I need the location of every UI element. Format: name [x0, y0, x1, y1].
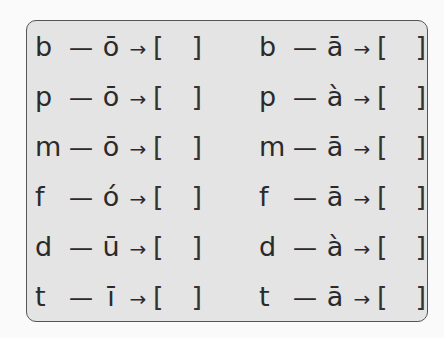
open-bracket: [: [153, 127, 164, 167]
arrow-icon: →: [123, 179, 153, 219]
dash: —: [287, 178, 323, 218]
dash: —: [287, 278, 323, 318]
initial: m: [35, 127, 63, 167]
initial: p: [35, 77, 63, 117]
dash: —: [63, 228, 99, 268]
close-bracket: ]: [416, 277, 427, 317]
initial: b: [35, 27, 63, 67]
dash: —: [287, 28, 323, 68]
exercise-row: p—ō→[]: [35, 77, 213, 117]
open-bracket: [: [153, 277, 164, 317]
final: ī: [99, 277, 123, 317]
close-bracket: ]: [192, 177, 203, 217]
exercise-row: d—à→[]: [259, 227, 437, 267]
exercise-row: t—ī→[]: [35, 277, 213, 317]
initial: b: [259, 27, 287, 67]
exercise-row: t—ā→[]: [259, 277, 437, 317]
close-bracket: ]: [416, 77, 427, 117]
exercise-row: p—à→[]: [259, 77, 437, 117]
final: ā: [323, 127, 347, 167]
answer-blank[interactable]: []: [377, 177, 437, 217]
arrow-icon: →: [123, 229, 153, 269]
close-bracket: ]: [192, 277, 203, 317]
answer-blank[interactable]: []: [377, 77, 437, 117]
close-bracket: ]: [192, 77, 203, 117]
open-bracket: [: [153, 177, 164, 217]
final: ó: [99, 177, 123, 217]
open-bracket: [: [377, 27, 388, 67]
open-bracket: [: [377, 177, 388, 217]
initial: d: [35, 227, 63, 267]
exercise-row: m—ō→[]: [35, 127, 213, 167]
exercise-row: b—ō→[]: [35, 27, 213, 67]
arrow-icon: →: [123, 79, 153, 119]
arrow-icon: →: [347, 79, 377, 119]
exercise-row: d—ū→[]: [35, 227, 213, 267]
close-bracket: ]: [416, 27, 427, 67]
initial: t: [35, 277, 63, 317]
exercise-row: f—ó→[]: [35, 177, 213, 217]
dash: —: [63, 278, 99, 318]
arrow-icon: →: [123, 29, 153, 69]
open-bracket: [: [153, 77, 164, 117]
initial: t: [259, 277, 287, 317]
answer-blank[interactable]: []: [153, 77, 213, 117]
close-bracket: ]: [416, 227, 427, 267]
open-bracket: [: [377, 277, 388, 317]
open-bracket: [: [377, 127, 388, 167]
close-bracket: ]: [416, 127, 427, 167]
initial: d: [259, 227, 287, 267]
final: ā: [323, 27, 347, 67]
close-bracket: ]: [416, 177, 427, 217]
answer-blank[interactable]: []: [377, 277, 437, 317]
initial: f: [35, 177, 63, 217]
close-bracket: ]: [192, 227, 203, 267]
close-bracket: ]: [192, 27, 203, 67]
open-bracket: [: [153, 227, 164, 267]
exercise-row: m—ā→[]: [259, 127, 437, 167]
arrow-icon: →: [347, 279, 377, 319]
dash: —: [287, 78, 323, 118]
dash: —: [287, 128, 323, 168]
arrow-icon: →: [123, 129, 153, 169]
answer-blank[interactable]: []: [377, 127, 437, 167]
close-bracket: ]: [192, 127, 203, 167]
exercise-row: f—ā→[]: [259, 177, 437, 217]
answer-blank[interactable]: []: [153, 277, 213, 317]
arrow-icon: →: [347, 29, 377, 69]
arrow-icon: →: [347, 129, 377, 169]
final: ā: [323, 177, 347, 217]
final: ō: [99, 77, 123, 117]
final: ō: [99, 127, 123, 167]
arrow-icon: →: [347, 179, 377, 219]
open-bracket: [: [377, 77, 388, 117]
initial: m: [259, 127, 287, 167]
answer-blank[interactable]: []: [153, 127, 213, 167]
dash: —: [63, 128, 99, 168]
initial: p: [259, 77, 287, 117]
answer-blank[interactable]: []: [153, 27, 213, 67]
answer-blank[interactable]: []: [377, 27, 437, 67]
dash: —: [287, 228, 323, 268]
final: ō: [99, 27, 123, 67]
answer-blank[interactable]: []: [153, 227, 213, 267]
dash: —: [63, 78, 99, 118]
pinyin-exercise-box: b—ō→[] p—ō→[] m—ō→[] f—ó→[] d—ū→[] t—ī→[…: [26, 20, 428, 322]
open-bracket: [: [377, 227, 388, 267]
open-bracket: [: [153, 27, 164, 67]
final: ā: [323, 277, 347, 317]
arrow-icon: →: [347, 229, 377, 269]
final: à: [323, 227, 347, 267]
final: ū: [99, 227, 123, 267]
dash: —: [63, 178, 99, 218]
exercise-row: b—ā→[]: [259, 27, 437, 67]
initial: f: [259, 177, 287, 217]
dash: —: [63, 28, 99, 68]
final: à: [323, 77, 347, 117]
arrow-icon: →: [123, 279, 153, 319]
answer-blank[interactable]: []: [153, 177, 213, 217]
answer-blank[interactable]: []: [377, 227, 437, 267]
